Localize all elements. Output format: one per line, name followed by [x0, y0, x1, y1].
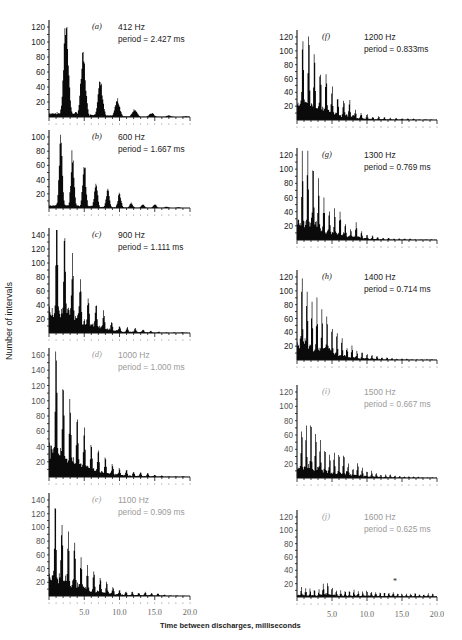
panel-period: period = 0.667 ms [364, 399, 431, 409]
y-tick-label: 60 [36, 68, 46, 77]
y-tick-label: 40 [284, 208, 294, 217]
y-tick-label: 20 [36, 315, 46, 324]
y-tick-label: 140 [31, 496, 45, 505]
panel-period: period = 0.909 ms [118, 507, 185, 517]
y-tick-label: 100 [31, 397, 45, 406]
panel-period: period = 1.667 ms [118, 144, 185, 154]
figure-canvas: 20406080100120(a)412 Hzperiod = 2.427 ms… [0, 0, 462, 640]
y-tick-label: 80 [36, 273, 46, 282]
histogram-bars [297, 583, 437, 597]
y-axis-label: Number of intervals [4, 282, 14, 360]
y-tick-label: 120 [31, 245, 45, 254]
panel-letter: (a) [92, 21, 102, 31]
y-tick-label: 80 [284, 179, 294, 188]
panel-letter: (c) [92, 229, 102, 239]
panel-period: period = 0.714 ms [364, 284, 431, 294]
y-tick-label: 100 [279, 165, 293, 174]
y-tick-label: 40 [284, 88, 294, 97]
annotation-asterisk: * [393, 577, 397, 586]
y-tick-label: 120 [279, 388, 293, 397]
y-tick-label: 20 [284, 222, 294, 231]
y-tick-label: 60 [284, 431, 294, 440]
panel-period: period = 0.833ms [364, 44, 428, 54]
y-tick-label: 60 [36, 427, 46, 436]
y-tick-label: 100 [279, 526, 293, 535]
y-tick-label: 100 [279, 402, 293, 411]
panel-letter: (j) [322, 511, 330, 521]
y-tick-label: 120 [279, 33, 293, 42]
panel-letter: (h) [322, 271, 332, 281]
panel-period: period = 0.625 ms [364, 524, 431, 534]
y-tick-label: 40 [284, 445, 294, 454]
y-tick-label: 60 [284, 194, 294, 203]
y-tick-label: 20 [36, 98, 46, 107]
x-tick-label: 5.0 [327, 610, 337, 619]
histogram-panel-e: 20406080100120140(e)1100 Hzperiod = 0.90… [31, 493, 197, 617]
histogram-bars [49, 508, 190, 596]
panel-period: period = 1.000 ms [118, 362, 185, 372]
y-tick-label: 60 [284, 75, 294, 84]
panel-frequency: 900 Hz [118, 230, 145, 240]
x-tick-label: 10.0 [112, 608, 126, 617]
panel-letter: (i) [322, 386, 330, 396]
y-tick-label: 20 [36, 458, 46, 467]
histogram-panel-b: 20406080100(b)600 Hzperiod = 1.667 ms [31, 130, 190, 216]
y-tick-label: 20 [284, 102, 294, 111]
histogram-bars [297, 425, 437, 478]
panel-period: period = 0.769 ms [364, 162, 431, 172]
panel-letter: (d) [92, 349, 102, 359]
y-tick-label: 20 [36, 578, 46, 587]
x-tick-label: 20.0 [430, 610, 444, 619]
histogram-panel-a: 20406080100120(a)412 Hzperiod = 2.427 ms [31, 20, 190, 125]
y-tick-label: 160 [31, 351, 45, 360]
panel-frequency: 600 Hz [118, 132, 145, 142]
y-tick-label: 80 [36, 53, 46, 62]
y-tick-label: 120 [279, 513, 293, 522]
panel-frequency: 1000 Hz [118, 350, 150, 360]
y-tick-label: 100 [31, 38, 45, 47]
panel-period: period = 1.111 ms [118, 242, 183, 252]
y-tick-label: 20 [284, 580, 294, 589]
y-tick-label: 100 [279, 47, 293, 56]
y-tick-label: 60 [36, 287, 46, 296]
histogram-panel-f: 20406080100120(f)1200 Hzperiod = 0.833ms [279, 30, 437, 128]
y-tick-label: 100 [31, 259, 45, 268]
y-tick-label: 60 [284, 315, 294, 324]
x-tick-label: 10.0 [360, 610, 374, 619]
panel-letter: (e) [92, 494, 102, 504]
y-tick-label: 40 [36, 443, 46, 452]
x-tick-label: 15.0 [148, 608, 162, 617]
panel-frequency: 1400 Hz [364, 272, 396, 282]
y-tick-label: 120 [31, 23, 45, 32]
y-tick-label: 40 [36, 83, 46, 92]
y-tick-label: 40 [36, 565, 46, 574]
y-tick-label: 80 [284, 61, 294, 70]
panel-frequency: 1500 Hz [364, 387, 396, 397]
panel-period: period = 2.427 ms [118, 34, 185, 44]
panel-letter: (g) [322, 149, 332, 159]
y-tick-label: 20 [36, 190, 46, 199]
y-tick-label: 60 [36, 161, 46, 170]
histogram-panel-g: 20406080100120(g)1300 Hzperiod = 0.769 m… [279, 148, 437, 248]
histogram-panel-j: 20406080100120(j)1600 Hzperiod = 0.625 m… [279, 510, 444, 619]
panel-letter: (f) [322, 31, 330, 41]
panel-frequency: 1200 Hz [364, 32, 396, 42]
y-tick-label: 80 [284, 540, 294, 549]
x-tick-label: 20.0 [183, 608, 197, 617]
y-tick-label: 40 [284, 328, 294, 337]
y-tick-label: 40 [36, 301, 46, 310]
y-tick-label: 40 [284, 566, 294, 575]
y-tick-label: 40 [36, 176, 46, 185]
y-tick-label: 20 [284, 460, 294, 469]
y-tick-label: 60 [36, 551, 46, 560]
panel-frequency: 412 Hz [118, 22, 145, 32]
y-tick-label: 120 [31, 510, 45, 519]
histogram-panel-i: 20406080100120(i)1500 Hzperiod = 0.667 m… [279, 385, 437, 486]
y-tick-label: 140 [31, 366, 45, 375]
panel-frequency: 1100 Hz [118, 495, 149, 505]
y-tick-label: 100 [31, 133, 45, 142]
y-tick-label: 100 [31, 523, 45, 532]
y-tick-label: 80 [36, 537, 46, 546]
y-tick-label: 80 [284, 301, 294, 310]
y-tick-label: 120 [279, 273, 293, 282]
